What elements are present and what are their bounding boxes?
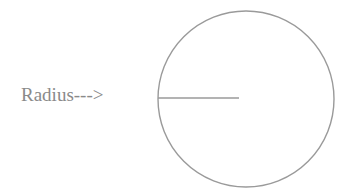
- circle-diagram: [0, 0, 351, 195]
- circle-outline: [158, 11, 334, 187]
